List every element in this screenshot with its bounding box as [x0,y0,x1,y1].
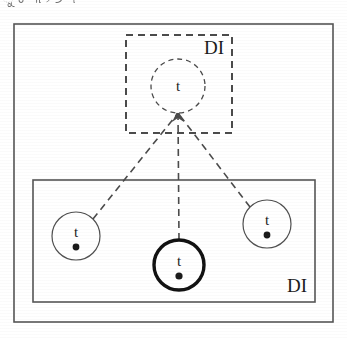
node-center-t-instance-dot [175,272,182,279]
top-group-label: DI [204,37,224,58]
technical-diagram: tttt DI DI [0,0,347,338]
node-left-t-instance-dot [73,244,80,251]
node-right-t: t [243,200,291,248]
node-center-t: t [154,240,204,290]
edge-right-to-apex [178,113,250,207]
node-left-t: t [52,212,100,260]
nodes-layer: tttt [52,59,291,290]
bottom-group-label: DI [287,275,307,296]
node-right-t-instance-dot [264,232,271,239]
edge-left-to-apex [93,113,178,219]
node-abstract-t: t [151,59,205,113]
figure-canvas: ୁ ଚ ୩ ୨ ୬ ୴ ୋ tttt DI DI [0,0,347,338]
